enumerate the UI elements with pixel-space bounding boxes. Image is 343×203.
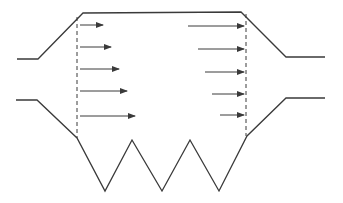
upper-wall-line (17, 12, 325, 59)
diagram-svg (0, 0, 343, 203)
inlet-velocity-arrows (80, 25, 135, 116)
outlet-velocity-arrows (188, 26, 244, 115)
lower-wall-zigzag-line (16, 98, 325, 191)
flow-channel-diagram (0, 0, 343, 203)
section-dashed-lines (77, 14, 246, 138)
